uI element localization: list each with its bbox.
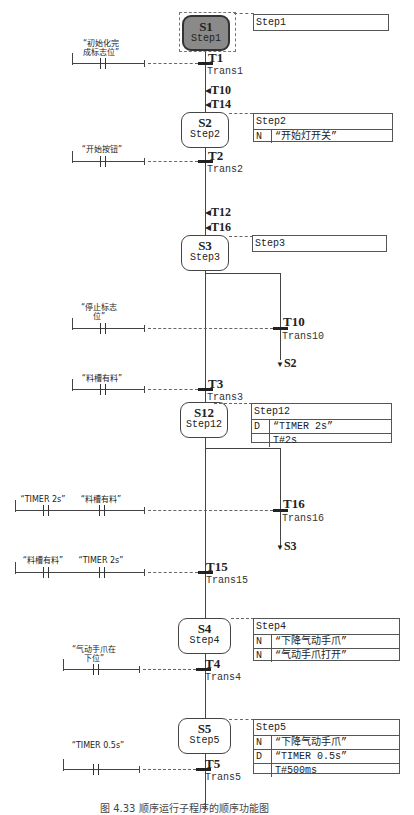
no-contact-icon[interactable] xyxy=(100,58,106,69)
action-block-s3[interactable]: Step3 xyxy=(252,235,387,252)
action-qualifier: D xyxy=(252,420,270,433)
action-value: T#2s xyxy=(270,434,391,447)
no-contact-icon[interactable] xyxy=(93,664,99,675)
step-s1[interactable]: S1 Step1 xyxy=(182,15,230,51)
arrow-down-icon: ▼ xyxy=(276,360,284,369)
action-row: D “TIMER 2s” xyxy=(252,420,391,434)
step-s5[interactable]: S5 Step5 xyxy=(178,718,231,754)
wire xyxy=(15,572,144,573)
transition-id: T1 xyxy=(208,51,223,64)
step-s4[interactable]: S4 Step4 xyxy=(178,618,231,654)
action-value: “TIMER 2s” xyxy=(270,420,391,433)
wire xyxy=(63,669,139,670)
action-qualifier: N xyxy=(254,736,272,749)
action-block-s5[interactable]: Step5 N “下降气动手爪” D “TIMER 0.5s” T#500ms xyxy=(253,719,400,774)
step-name: Step12 xyxy=(181,419,227,431)
step-id: S1 xyxy=(184,20,228,33)
action-title: Step2 xyxy=(254,114,392,130)
action-title: Step12 xyxy=(252,404,391,420)
step-id: S4 xyxy=(179,622,230,635)
jump-label: T10 xyxy=(211,83,231,97)
contact-label: “初始化完 成标志位” xyxy=(76,39,126,57)
incoming-jump-t10[interactable]: ◂T10 xyxy=(205,84,231,96)
action-row: T#500ms xyxy=(254,764,399,777)
transition-name: Trans2 xyxy=(207,164,243,175)
action-qualifier xyxy=(252,434,270,447)
transition-id: T16 xyxy=(283,497,305,510)
condition-connector xyxy=(148,63,198,64)
action-row: N “气动手爪打开” xyxy=(254,649,399,662)
branch-line xyxy=(280,448,281,511)
jump-target: S3 xyxy=(284,539,297,553)
no-contact-icon[interactable] xyxy=(100,156,106,167)
wire xyxy=(72,328,144,329)
step-id: S5 xyxy=(179,722,230,735)
condition-connector xyxy=(148,572,198,573)
jump-target: S2 xyxy=(284,356,297,370)
action-value: “气动手爪打开” xyxy=(272,649,399,662)
incoming-jump-t12[interactable]: ◂T12 xyxy=(205,206,231,218)
no-contact-icon[interactable] xyxy=(99,567,105,578)
step-name: Step4 xyxy=(179,635,230,647)
action-block-s1[interactable]: Step1 xyxy=(253,14,389,31)
wire xyxy=(15,510,144,511)
no-contact-icon[interactable] xyxy=(100,384,106,395)
contact-label: “气动手爪在 下位” xyxy=(64,645,124,663)
jump-to-s3[interactable]: ▼S3 xyxy=(276,540,297,554)
jump-label: T16 xyxy=(211,220,231,234)
action-value: “下降气动手爪” xyxy=(272,635,399,648)
transition-name: Trans4 xyxy=(205,672,241,683)
action-value: T#500ms xyxy=(272,764,399,777)
no-contact-icon[interactable] xyxy=(100,323,106,334)
rung-end xyxy=(144,507,145,514)
action-connector xyxy=(229,113,253,114)
action-row: T#2s xyxy=(252,434,391,447)
action-row: N “开始灯开关” xyxy=(254,130,392,143)
condition-rung-t5[interactable] xyxy=(63,759,141,773)
rung-end xyxy=(144,60,145,67)
transition-id: T3 xyxy=(208,377,223,390)
contact-label: “料槽有料” xyxy=(76,495,126,504)
transition-id: T15 xyxy=(206,560,228,573)
contact-label: “TIMER 2s” xyxy=(76,556,126,565)
incoming-jump-t14[interactable]: ◂T14 xyxy=(205,98,231,110)
action-row: D “TIMER 0.5s” xyxy=(254,750,399,764)
action-title: Step4 xyxy=(254,619,399,635)
contact-label: “TIMER 2s” xyxy=(18,495,68,504)
action-title: Step1 xyxy=(254,15,388,30)
arrow-down-icon: ▼ xyxy=(276,543,284,552)
condition-connector xyxy=(143,769,196,770)
step-s2[interactable]: S2 Step2 xyxy=(181,112,229,148)
action-block-s2[interactable]: Step2 N “开始灯开关” xyxy=(253,113,393,142)
rung-end xyxy=(139,666,140,673)
step-name: Step3 xyxy=(182,252,228,264)
wire xyxy=(72,63,144,64)
transition-id: T2 xyxy=(208,149,223,162)
condition-connector xyxy=(148,389,198,390)
action-connector xyxy=(231,618,254,619)
action-title: Step5 xyxy=(254,720,399,736)
no-contact-icon[interactable] xyxy=(43,505,49,516)
step-s3[interactable]: S3 Step3 xyxy=(181,235,229,271)
action-block-s4[interactable]: Step4 N “下降气动手爪” N “气动手爪打开” xyxy=(253,618,400,661)
transition-name: Trans10 xyxy=(282,331,324,342)
condition-connector xyxy=(148,161,198,162)
rung-end xyxy=(144,158,145,165)
no-contact-icon[interactable] xyxy=(93,764,99,775)
no-contact-icon[interactable] xyxy=(99,505,105,516)
no-contact-icon[interactable] xyxy=(43,567,49,578)
action-connector xyxy=(214,403,252,404)
step-name: Step2 xyxy=(182,129,228,141)
condition-connector xyxy=(148,328,273,329)
contact-label: “开始按钮” xyxy=(74,145,130,154)
wire xyxy=(72,161,144,162)
transition-id: T10 xyxy=(283,315,305,328)
transition-name: Trans15 xyxy=(206,575,248,586)
step-s12[interactable]: S12 Step12 xyxy=(180,402,228,438)
action-block-s12[interactable]: Step12 D “TIMER 2s” T#2s xyxy=(251,403,392,443)
transition-id: T4 xyxy=(205,657,220,670)
incoming-jump-t16[interactable]: ◂T16 xyxy=(205,221,231,233)
jump-to-s2[interactable]: ▼S2 xyxy=(276,357,297,371)
action-row: N “下降气动手爪” xyxy=(254,635,399,649)
wire xyxy=(72,389,144,390)
